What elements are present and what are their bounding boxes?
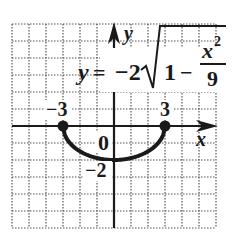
x-axis-label: x: [195, 128, 206, 150]
eq-minus: −: [180, 60, 193, 85]
eq-exponent: 2: [214, 34, 221, 49]
origin-label: 0: [98, 130, 109, 155]
tick-label-neg3: −3: [46, 98, 67, 120]
endpoint-dot: [160, 121, 171, 132]
eq-denominator: 9: [207, 66, 218, 91]
endpoint-dot: [58, 121, 69, 132]
eq-one: 1: [164, 59, 176, 85]
y-axis-label: y: [122, 22, 133, 45]
tick-label-neg2: −2: [85, 159, 106, 181]
graph: y = −2 1 − x 2 9 −3 3 0 −2 y x: [0, 0, 236, 238]
eq-equals: =: [93, 60, 106, 85]
tick-label-3: 3: [160, 98, 170, 120]
eq-coef: −2: [115, 59, 141, 85]
eq-numerator: x: [201, 38, 213, 63]
eq-lhs: y: [75, 59, 89, 85]
